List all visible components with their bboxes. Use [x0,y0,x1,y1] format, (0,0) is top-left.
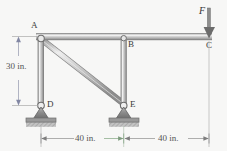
dimension-label-30in: 30 in. [5,62,28,71]
dimension-height-AD [12,37,38,106]
figure-canvas: A B C D E F 30 in. 40 in. 40 in. [0,0,227,151]
joint-label-D: D [47,100,54,109]
pin-joint-A [38,35,45,42]
joint-label-B: B [128,40,134,49]
joint-label-C: C [206,41,212,50]
joint-label-E: E [130,100,136,109]
joint-label-A: A [31,21,38,30]
dimension-label-40in-left: 40 in. [74,134,97,143]
force-label-F: F [199,6,205,16]
member-diagonal-AE [41,39,124,104]
member-column-BE [121,37,127,106]
member-column-AD [38,37,44,106]
dimension-label-40in-right: 40 in. [157,134,180,143]
pin-joint-B [121,36,126,41]
